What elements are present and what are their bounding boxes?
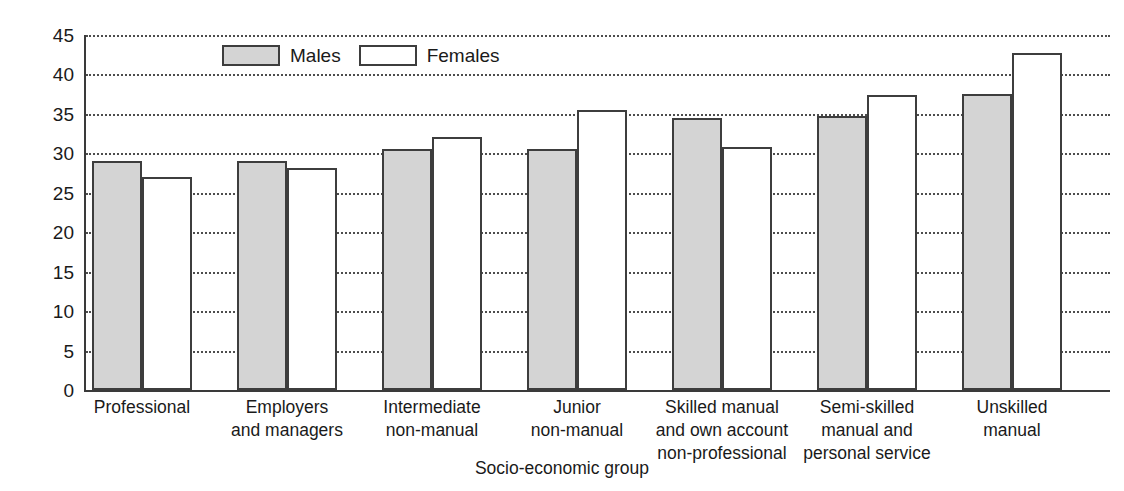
bar-males-0	[92, 161, 142, 390]
y-axis-tick-label: 25	[30, 184, 74, 203]
x-axis-category-label: Unskilled manual	[927, 396, 1097, 442]
y-axis-tick-label: 40	[30, 65, 74, 84]
bar-males-3	[527, 149, 577, 390]
gridline	[86, 74, 1110, 76]
y-axis-tick-label: 15	[30, 263, 74, 282]
bar-males-2	[382, 149, 432, 390]
gridline	[86, 35, 1110, 37]
bar-females-2	[432, 137, 482, 390]
y-axis-line	[84, 35, 86, 391]
plot-area	[84, 35, 1110, 390]
legend-item-females: Females	[359, 45, 500, 66]
bar-males-5	[817, 116, 867, 390]
x-axis-title: Socio-economic group	[0, 458, 1124, 479]
x-axis-line	[84, 390, 1110, 392]
y-axis-tick-label: 10	[30, 302, 74, 321]
bar-females-5	[867, 95, 917, 390]
bar-females-0	[142, 177, 192, 390]
legend-label-females: Females	[427, 46, 500, 65]
legend-label-males: Males	[290, 46, 341, 65]
bar-males-6	[962, 94, 1012, 390]
y-axis-tick-label: 20	[30, 223, 74, 242]
legend-swatch-females-icon	[359, 45, 417, 66]
bar-females-6	[1012, 53, 1062, 390]
y-axis-tick-label: 45	[30, 26, 74, 45]
bar-females-3	[577, 110, 627, 390]
bar-males-1	[237, 161, 287, 390]
x-axis-category-labels: ProfessionalEmployers and managersInterm…	[84, 396, 1110, 458]
legend-item-males: Males	[222, 45, 341, 66]
y-axis-tick-label: 35	[30, 105, 74, 124]
legend: Males Females	[222, 45, 500, 66]
y-axis-tick-label: 30	[30, 144, 74, 163]
bar-females-1	[287, 168, 337, 390]
y-axis-tick-label: 5	[30, 342, 74, 361]
bar-males-4	[672, 118, 722, 390]
bar-chart: percentage 051015202530354045 Males Fema…	[0, 0, 1124, 491]
bar-females-4	[722, 147, 772, 390]
legend-swatch-males-icon	[222, 45, 280, 66]
